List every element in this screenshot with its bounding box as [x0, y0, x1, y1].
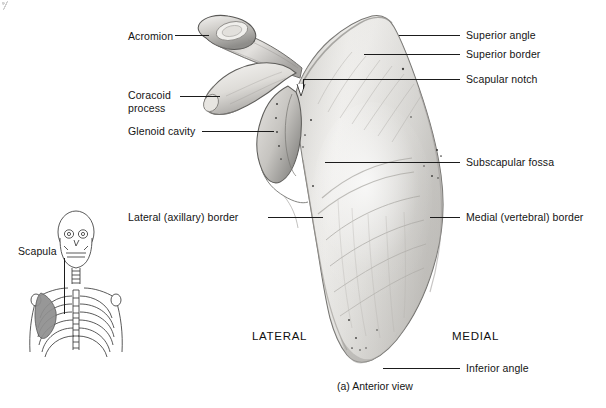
label-inferior-angle: Inferior angle: [466, 362, 529, 375]
leader-glenoid-cavity: [202, 131, 274, 132]
label-acromion: Acromion: [128, 30, 173, 43]
label-glenoid-cavity: Glenoid cavity: [128, 125, 195, 138]
leader-coracoid-process: [180, 96, 220, 97]
label-lateral-axillary-border: Lateral (axillary) border: [128, 211, 238, 224]
right-orbit: [78, 230, 87, 238]
label-scapular-notch: Scapular notch: [466, 73, 537, 86]
leader-scapular-notch-drop: [303, 79, 304, 89]
thoracic-vertebrae: [73, 324, 79, 348]
leader-inset-scapula: [64, 258, 65, 314]
right-humeral-head: [111, 294, 121, 306]
leader-superior-angle: [399, 35, 460, 36]
label-medial-vertebral-border: Medial (vertebral) border: [466, 211, 583, 224]
cervical-spine-sides: [72, 268, 80, 284]
leader-scapular-notch: [303, 79, 460, 80]
scapula-anterior-figure: Acromion Coracoid process Glenoid cavity…: [0, 0, 606, 408]
leader-inferior-angle: [383, 368, 460, 369]
skeleton-inset-illustration: [0, 0, 606, 408]
orientation-lateral: LATERAL: [252, 330, 307, 342]
label-coracoid-process: Coracoid process: [128, 89, 171, 114]
label-subscapular-fossa: Subscapular fossa: [466, 156, 554, 169]
label-superior-angle: Superior angle: [466, 29, 536, 42]
thoracic-spine: [73, 318, 79, 350]
left-orbit: [64, 230, 73, 238]
figure-caption: (a) Anterior view: [337, 380, 413, 392]
leader-medial-border: [430, 217, 460, 218]
label-superior-border: Superior border: [466, 48, 540, 61]
highlighted-scapula: [35, 293, 56, 338]
orientation-medial: MEDIAL: [452, 330, 499, 342]
leader-subscapular-fossa: [325, 162, 460, 163]
cervical-vertebrae: [72, 271, 80, 283]
sternum: [73, 290, 79, 318]
right-clavicle: [84, 288, 114, 297]
leader-lateral-border: [268, 217, 323, 218]
right-humerus: [116, 300, 122, 352]
label-inset-scapula: Scapula: [18, 245, 57, 258]
leader-acromion: [175, 35, 209, 36]
leader-superior-border: [364, 54, 460, 55]
